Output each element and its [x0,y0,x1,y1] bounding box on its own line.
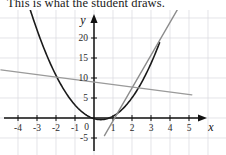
x-tick-label: -1 [71,123,79,133]
y-tick-label: 15 [79,53,89,63]
x-tick-label: 1 [111,123,116,133]
x-tick-label: 3 [149,123,154,133]
y-tick-label: 5 [83,93,88,103]
x-tick-label: 2 [130,123,135,133]
y-tick-label: -5 [80,133,88,143]
x-tick-label: -3 [33,123,41,133]
coordinate-plane: -4-3-2-112345-551015200xy [0,10,226,155]
x-tick-label: -4 [14,123,22,133]
grid-lines [0,10,226,155]
graph-figure: -4-3-2-112345-551015200xy [0,10,226,155]
figure-caption: This is what the student draws. [7,0,226,10]
y-tick-label: 10 [79,73,89,83]
axis-ticks [18,38,189,138]
x-axis-arrow-icon [198,114,207,121]
x-tick-label: 5 [187,123,192,133]
plotted-curves [1,10,192,136]
curve-tangent-line-steep [104,10,178,136]
x-tick-label: -2 [52,123,60,133]
y-axis-arrow-icon [90,14,97,23]
x-tick-label: 4 [168,123,173,133]
y-axis-label: y [79,13,86,27]
curve-parabola [26,10,160,120]
curve-shallow-line [1,70,192,95]
y-tick-label: 20 [79,33,89,43]
x-axis-label: x [207,120,214,134]
origin-label: 0 [84,122,89,132]
